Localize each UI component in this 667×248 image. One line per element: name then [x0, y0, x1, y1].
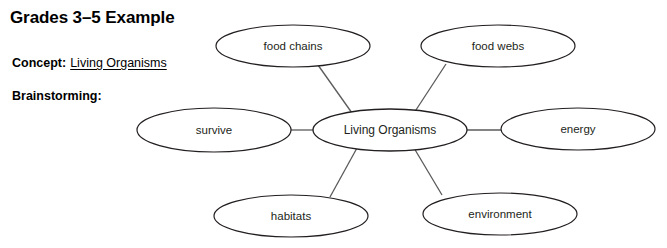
bubble-label-living-organisms: Living Organisms — [344, 123, 437, 137]
bubble-node-food-webs[interactable]: food webs — [421, 25, 575, 67]
edge-environment — [414, 148, 442, 195]
edge-habitats — [330, 148, 357, 197]
bubble-label-habitats: habitats — [271, 210, 312, 222]
bubble-layer: Living Organismsfood chainsfood webssurv… — [137, 25, 655, 237]
bubble-label-survive: survive — [196, 124, 232, 136]
bubble-node-environment[interactable]: environment — [423, 193, 577, 235]
concept-map-diagram: Living Organismsfood chainsfood webssurv… — [0, 0, 667, 248]
bubble-label-environment: environment — [468, 208, 532, 220]
bubble-node-survive[interactable]: survive — [137, 108, 291, 152]
edge-food-webs — [414, 64, 446, 113]
bubble-node-energy[interactable]: energy — [501, 108, 655, 150]
edge-food-chains — [318, 65, 352, 113]
worksheet-page: Grades 3–5 Example Concept:Living Organi… — [0, 0, 667, 248]
bubble-label-food-webs: food webs — [472, 40, 525, 52]
bubble-label-energy: energy — [560, 123, 595, 135]
bubble-node-food-chains[interactable]: food chains — [216, 25, 370, 67]
bubble-node-living-organisms[interactable]: Living Organisms — [313, 109, 467, 151]
bubble-label-food-chains: food chains — [264, 40, 323, 52]
bubble-node-habitats[interactable]: habitats — [214, 195, 368, 237]
